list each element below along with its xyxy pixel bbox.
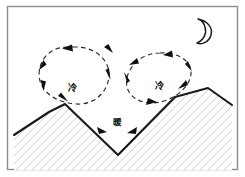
diagram-canvas: 冷 冷 暖 xyxy=(0,0,245,177)
cold-air-label-left: 冷 xyxy=(68,82,77,93)
diagram-figure: 冷 冷 暖 xyxy=(0,0,245,177)
warm-air-label: 暖 xyxy=(113,117,122,127)
cold-air-label-right: 冷 xyxy=(155,80,164,91)
